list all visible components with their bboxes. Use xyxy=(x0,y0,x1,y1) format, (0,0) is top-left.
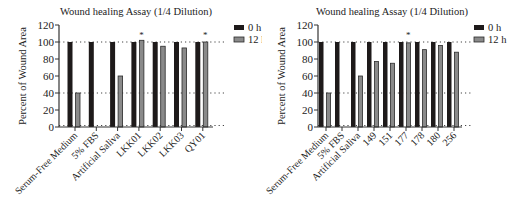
legend-swatch xyxy=(474,25,484,30)
bar-group xyxy=(153,42,166,127)
bar-group xyxy=(415,42,427,127)
bar-group xyxy=(131,40,144,127)
legend-label: 0 h xyxy=(248,22,262,33)
bar-group xyxy=(431,42,443,127)
legend-item-12h: 12 h xyxy=(234,34,262,45)
y-tick-label: 0 xyxy=(308,121,314,133)
legend-swatch xyxy=(234,25,244,30)
bar-group xyxy=(110,42,123,127)
bar-group xyxy=(367,42,379,127)
bar-chart-left: Wound healing Assay (1/4 Dilution)Percen… xyxy=(0,0,262,216)
bar-0h xyxy=(195,42,200,127)
bar-0h xyxy=(335,42,340,127)
bar-group xyxy=(319,42,331,127)
bar-12h xyxy=(375,62,379,127)
x-tick-label: 178 xyxy=(408,130,426,148)
x-tick-label: 151 xyxy=(376,130,394,148)
x-tick-label: 256 xyxy=(440,130,458,148)
y-tick-label: 40 xyxy=(43,87,55,99)
bar-0h xyxy=(153,42,158,127)
y-tick-label: 60 xyxy=(43,70,55,82)
x-tick-label: QY01 xyxy=(182,130,207,155)
chart-panel-right: Wound healing Assay (1/4 Dilution)Percen… xyxy=(262,0,523,216)
y-tick-label: 40 xyxy=(302,87,314,99)
y-tick-label: 60 xyxy=(302,70,314,82)
y-tick-label: 120 xyxy=(297,19,314,31)
x-tick-label: 180 xyxy=(424,130,442,148)
x-tick-label: 149 xyxy=(360,130,378,148)
bar-0h xyxy=(319,42,324,127)
chart-panel-left: Wound healing Assay (1/4 Dilution)Percen… xyxy=(0,0,262,216)
x-tick-label: Serum-Free Medium xyxy=(13,129,80,196)
y-tick-label: 20 xyxy=(43,104,55,116)
bar-0h xyxy=(367,42,372,127)
chart-title: Wound healing Assay (1/4 Dilution) xyxy=(60,6,212,18)
x-tick-label: 177 xyxy=(392,130,410,148)
significance-marker: * xyxy=(203,30,208,40)
bar-group xyxy=(335,42,340,127)
bar-12h xyxy=(391,63,395,127)
legend-item-0h: 0 h xyxy=(474,22,502,33)
bar-group xyxy=(68,42,81,127)
y-tick-label: 100 xyxy=(38,36,55,48)
bar-12h xyxy=(407,43,411,127)
y-axis-label: Percent of Wound Area xyxy=(276,27,287,125)
bar-0h xyxy=(431,42,436,127)
bar-group xyxy=(383,42,395,127)
bar-12h xyxy=(139,40,144,127)
y-tick-label: 20 xyxy=(302,104,314,116)
y-tick-label: 80 xyxy=(43,53,55,65)
bar-0h xyxy=(89,42,94,127)
legend-swatch xyxy=(474,37,484,42)
y-tick-label: 0 xyxy=(49,121,55,133)
bar-group xyxy=(89,42,94,127)
bar-0h xyxy=(383,42,388,127)
bar-chart-right: Wound healing Assay (1/4 Dilution)Percen… xyxy=(262,0,523,216)
bar-12h xyxy=(76,93,81,127)
bar-12h xyxy=(455,52,459,127)
y-tick-label: 120 xyxy=(38,19,55,31)
bar-0h xyxy=(351,42,356,127)
y-tick-label: 80 xyxy=(302,53,314,65)
bar-12h xyxy=(118,76,123,127)
bar-12h xyxy=(439,45,443,127)
bar-0h xyxy=(447,42,452,127)
bar-group xyxy=(174,42,187,127)
bar-group xyxy=(195,42,208,127)
bar-12h xyxy=(203,42,208,127)
bar-group xyxy=(351,42,363,127)
legend-label: 12 h xyxy=(248,34,262,45)
bar-12h xyxy=(327,93,331,127)
legend-label: 12 h xyxy=(488,34,507,45)
bar-group xyxy=(447,42,459,127)
bar-0h xyxy=(68,42,73,127)
chart-title: Wound healing Assay (1/4 Dilution) xyxy=(316,6,468,18)
y-tick-label: 100 xyxy=(297,36,314,48)
bar-0h xyxy=(399,42,404,127)
significance-marker: * xyxy=(406,30,411,40)
bar-0h xyxy=(131,42,136,127)
bar-12h xyxy=(423,50,427,127)
legend-item-12h: 12 h xyxy=(474,34,507,45)
significance-marker: * xyxy=(139,30,144,40)
legend-swatch xyxy=(234,37,244,42)
bar-12h xyxy=(359,76,363,127)
bar-12h xyxy=(182,48,187,127)
legend-item-0h: 0 h xyxy=(234,22,262,33)
bar-0h xyxy=(174,42,179,127)
bar-group xyxy=(399,42,411,127)
bar-12h xyxy=(161,46,166,127)
bar-0h xyxy=(415,42,420,127)
bar-0h xyxy=(110,42,115,127)
y-axis-label: Percent of Wound Area xyxy=(17,27,28,125)
legend-label: 0 h xyxy=(488,22,502,33)
